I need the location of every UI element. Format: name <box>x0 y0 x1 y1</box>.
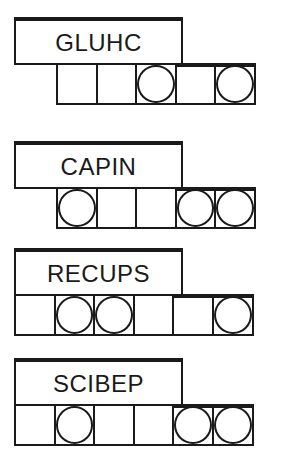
scrambled-word: CAPIN <box>61 151 137 181</box>
letter-cell[interactable] <box>96 187 138 229</box>
letter-cell[interactable] <box>175 187 217 229</box>
circle-marker-icon <box>137 65 175 103</box>
circle-marker-icon <box>58 189 96 227</box>
letter-cell[interactable] <box>14 404 56 446</box>
answer-cells <box>14 294 254 336</box>
letter-cell[interactable] <box>93 404 135 446</box>
letter-cell[interactable] <box>93 294 135 336</box>
scrambled-word-box: CAPIN <box>14 141 183 189</box>
scrambled-word-box: RECUPS <box>14 248 183 296</box>
letter-cell[interactable] <box>172 404 214 446</box>
circle-marker-icon <box>214 296 252 334</box>
letter-cell[interactable] <box>56 187 98 229</box>
letter-cell[interactable] <box>54 404 96 446</box>
letter-cell[interactable] <box>54 294 96 336</box>
letter-cell[interactable] <box>172 294 214 336</box>
circle-marker-icon <box>177 189 215 227</box>
letter-cell[interactable] <box>214 63 256 105</box>
letter-cell[interactable] <box>135 63 177 105</box>
answer-cells <box>56 63 256 105</box>
answer-cells <box>14 404 254 446</box>
scrambled-word-box: SCIBEP <box>14 358 183 406</box>
circle-marker-icon <box>216 65 254 103</box>
circle-marker-icon <box>174 406 212 444</box>
letter-cell[interactable] <box>14 294 56 336</box>
scrambled-word: RECUPS <box>47 258 150 288</box>
answer-cells <box>56 187 256 229</box>
circle-marker-icon <box>56 296 94 334</box>
letter-cell[interactable] <box>133 294 175 336</box>
letter-cell[interactable] <box>96 63 138 105</box>
circle-marker-icon <box>216 189 254 227</box>
letter-cell[interactable] <box>56 63 98 105</box>
scrambled-word-box: GLUHC <box>14 17 183 65</box>
letter-cell[interactable] <box>212 404 254 446</box>
letter-cell[interactable] <box>214 187 256 229</box>
scrambled-word: GLUHC <box>55 27 142 57</box>
circle-marker-icon <box>56 406 94 444</box>
letter-cell[interactable] <box>175 63 217 105</box>
circle-marker-icon <box>214 406 252 444</box>
circle-marker-icon <box>95 296 133 334</box>
letter-cell[interactable] <box>133 404 175 446</box>
scrambled-word: SCIBEP <box>53 368 144 398</box>
letter-cell[interactable] <box>135 187 177 229</box>
letter-cell[interactable] <box>212 294 254 336</box>
